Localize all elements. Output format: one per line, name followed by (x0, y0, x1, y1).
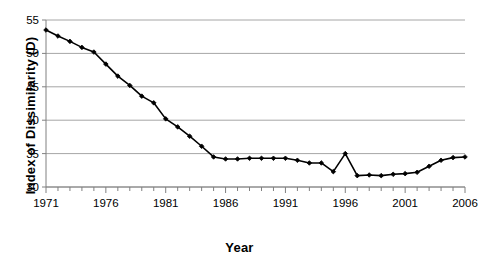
chart-container: 19711976198119861991199620012006 3035404… (0, 0, 479, 262)
x-tick-label-1976: 1976 (93, 197, 119, 209)
x-axis-ticks (46, 187, 465, 193)
x-axis-tick-labels: 19711976198119861991199620012006 (33, 197, 478, 209)
x-tick-label-1981: 1981 (153, 197, 179, 209)
y-axis-ticks (42, 20, 46, 187)
y-axis-title: Index of Dissimilarity (D) (23, 16, 38, 216)
plot-area-background (46, 20, 465, 187)
x-tick-label-1986: 1986 (213, 197, 239, 209)
plot-background (46, 20, 465, 187)
x-tick-label-1996: 1996 (332, 197, 358, 209)
x-axis-title: Year (0, 240, 479, 255)
line-chart-plot: 19711976198119861991199620012006 3035404… (0, 0, 479, 262)
x-tick-label-2006: 2006 (452, 197, 478, 209)
x-tick-label-2001: 2001 (392, 197, 418, 209)
x-tick-label-1991: 1991 (273, 197, 299, 209)
